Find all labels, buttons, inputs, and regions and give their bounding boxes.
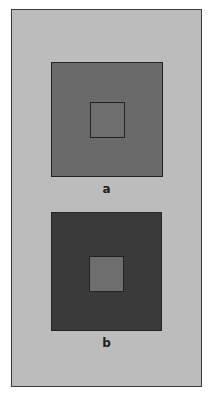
surround-square-a [51,62,163,177]
stimulus-group-a: a [12,62,201,196]
figure-panel: a b [11,9,202,387]
panel-caption-a: a [12,182,201,196]
figure-canvas: a b [0,0,214,397]
surround-square-b [51,212,162,331]
test-patch-b [89,256,124,292]
panel-caption-b: b [12,336,201,350]
test-patch-a [90,102,125,138]
stimulus-group-b: b [12,212,201,350]
